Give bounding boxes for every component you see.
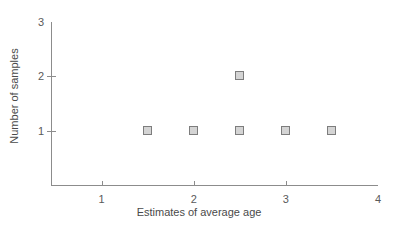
x-tick-label: 3 [283,193,289,205]
y-tick-mark [47,76,56,77]
x-tick-label: 1 [99,193,105,205]
x-tick-mark [286,181,287,186]
x-axis-title: Estimates of average age [0,206,398,218]
y-tick-label: 1 [38,125,44,137]
data-point-marker [235,71,244,80]
x-tick-label: 4 [375,193,381,205]
plot-area: 123 1234 [51,22,378,186]
y-tick-label: 3 [38,16,44,28]
y-axis-line [51,22,52,186]
y-axis-title: Number of samples [8,21,20,171]
x-tick-mark [194,181,195,186]
data-point-marker [327,126,336,135]
data-point-marker [235,126,244,135]
scatter-plot-figure: 123 1234 Estimates of average age Number… [0,0,398,235]
data-point-marker [189,126,198,135]
x-tick-mark [102,181,103,186]
x-tick-label: 2 [191,193,197,205]
x-axis-line [51,185,378,186]
y-tick-label: 2 [38,70,44,82]
data-point-marker [281,126,290,135]
y-tick-mark [47,131,56,132]
data-point-marker [143,126,152,135]
